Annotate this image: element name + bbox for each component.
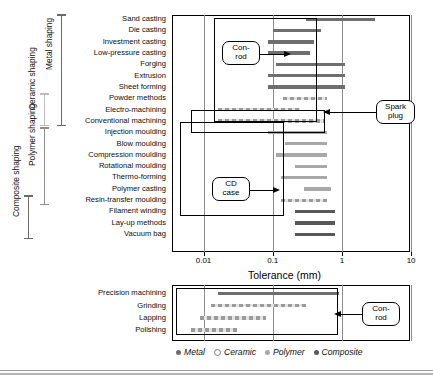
main-category-label: Die casting: [128, 26, 166, 34]
footer-divider: [0, 370, 433, 371]
legend-label: Ceramic: [224, 347, 256, 357]
bar-polymer: [295, 165, 327, 168]
callout-cd-case-leader: [249, 190, 274, 191]
callout-con-rod-arrow-icon: [284, 51, 291, 57]
main-category-label: Sheet forming: [119, 83, 166, 91]
callout-con-rod-leader: [259, 54, 285, 55]
group-bracket: [57, 14, 67, 126]
x-tick-label: 0.1: [253, 256, 293, 265]
main-category-label: Thermo-forming: [112, 173, 166, 181]
gridline: [342, 15, 343, 252]
legend-label: Polymer: [273, 347, 305, 357]
main-category-label: Powder methods: [109, 94, 166, 102]
x-axis-title: Tolerance (mm): [248, 269, 321, 281]
legend-marker-icon: [314, 350, 319, 355]
gridline: [411, 15, 412, 252]
footer-divider-2: [0, 373, 433, 375]
main-category-label: Forging: [140, 60, 166, 68]
lower-category-label: Precision machining: [98, 289, 166, 297]
callout-spark-plug: Spark plug: [376, 100, 415, 124]
bar-polymer: [285, 142, 327, 145]
main-category-label: Lay-up methods: [112, 219, 166, 227]
main-category-label: Electro-machining: [105, 106, 166, 114]
chart-figure: Sand castingDie castingInvestment castin…: [0, 0, 433, 379]
legend-label: Composite: [322, 347, 363, 357]
x-tick-label: 0.01: [184, 256, 224, 265]
legend-item: Ceramic: [214, 347, 256, 357]
callout-spark-plug-line2: plug: [380, 112, 411, 121]
callout-con-rod-line2: rod: [226, 53, 256, 62]
group-bracket: [40, 93, 50, 126]
callout-cd-case: CD case: [212, 177, 250, 201]
callout-spark-plug-leader: [330, 112, 376, 113]
callout-con-rod: Con- rod: [222, 41, 260, 65]
x-tick-label: 1: [322, 256, 362, 265]
legend-label: Metal: [184, 347, 205, 357]
lower-category-label-column: Precision machiningGrindingLappingPolish…: [0, 288, 170, 348]
legend-marker-icon: [176, 350, 181, 355]
bar-ceramic: [281, 199, 327, 202]
bar-composite: [295, 233, 335, 236]
group-bracket: [24, 195, 34, 239]
bar-composite: [295, 221, 335, 224]
main-category-label: Polymer casting: [112, 185, 166, 193]
lower-category-label: Lapping: [139, 314, 166, 322]
legend-item: Composite: [314, 347, 363, 357]
callout-lower-con-rod-leader: [341, 314, 362, 315]
main-category-label: Rotational moulding: [99, 162, 166, 170]
bar-composite: [295, 210, 335, 213]
legend-item: Metal: [176, 347, 205, 357]
legend-marker-icon: [265, 350, 270, 355]
cd-case-envelope: [180, 122, 284, 216]
main-category-label: Resin-transfer moulding: [85, 196, 166, 204]
legend-marker-icon: [214, 349, 221, 356]
callout-lower-con-rod-line2: rod: [366, 314, 396, 323]
main-category-label: Filament winding: [109, 207, 166, 215]
group-bracket: [40, 127, 50, 205]
bar-polymer: [304, 187, 332, 190]
callout-cd-case-line2: case: [216, 189, 246, 198]
bar-polymer: [281, 176, 327, 179]
legend-item: Polymer: [265, 347, 305, 357]
lower-con-rod-envelope: [176, 288, 338, 335]
x-tick-label: 10: [391, 256, 431, 265]
callout-cd-case-arrow-icon: [273, 187, 280, 193]
con-rod-envelope: [214, 18, 317, 122]
lower-category-label: Polishing: [135, 326, 166, 334]
callout-lower-con-rod: Con- rod: [362, 302, 400, 326]
lower-category-label: Grinding: [137, 302, 166, 310]
main-category-label: Conventional machining: [85, 117, 166, 125]
main-category-label: Low-pressure casting: [94, 49, 166, 57]
callout-spark-plug-arrow-icon: [323, 109, 330, 115]
main-category-label: Injection moulding: [105, 128, 166, 136]
main-category-label: Blow moulding: [117, 140, 166, 148]
main-category-label: Investment casting: [103, 38, 166, 46]
callout-lower-con-rod-arrow-icon: [334, 311, 341, 317]
gridline: [411, 285, 412, 341]
legend: MetalCeramicPolymerComposite: [176, 347, 363, 357]
main-category-label: Vacuum bag: [124, 230, 166, 238]
main-category-label: Compression moulding: [88, 151, 166, 159]
gridline: [342, 285, 343, 341]
main-category-label: Sand casting: [122, 15, 166, 23]
main-category-label: Extrusion: [134, 72, 166, 80]
